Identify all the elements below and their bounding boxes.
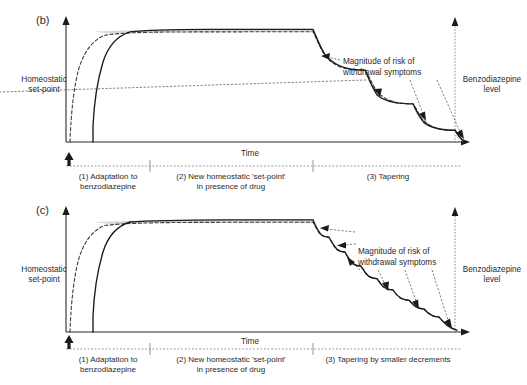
panel-c-phase-2-line2: in presence of drug [197,365,266,374]
panel-b-left-axis-label-line2: set-point [28,85,60,94]
panel-b-x-axis [66,138,470,145]
panel-b-right-axis-label-line2: level [484,85,501,94]
panel-c: (c) Homeostatic set-point Benzodiazepine… [0,192,527,384]
panel-b-phase-1-line2: benzodiazepine [80,182,137,191]
panel-c-annotation-line1: Magnitude of risk of [358,247,430,256]
right-axis-arrowhead [452,207,459,216]
x-axis-arrowhead [461,328,470,335]
panel-c-phase-ruler [66,343,462,355]
panel-b-phase-2-line1: (2) New homeostatic 'set-point' [176,172,286,181]
panel-b-phase-1-line1: (1) Adaptation to [79,172,138,181]
panel-b-drug-start-arrow [64,152,73,166]
panel-c-label: (c) [36,204,49,216]
panel-c-phase-1-line1: (1) Adaptation to [79,355,138,364]
panel-c-risk-shading [93,220,456,330]
panel-c-right-axis [452,207,459,332]
panel-b-phase-3-line1: (3) Tapering [367,172,410,181]
right-axis-arrowhead [452,17,459,26]
panel-c-chart: (c) Homeostatic set-point Benzodiazepine… [0,192,527,384]
panel-c-x-axis [66,328,470,335]
left-axis-arrowhead [62,206,69,215]
panel-b-risk-shading [93,29,466,141]
panel-c-left-axis-label-line2: set-point [28,275,60,284]
panel-c-phase-2-line1: (2) New homeostatic 'set-point' [176,355,286,364]
panel-b-chart: (b) Homeostatic set-point Benzodiazepine… [0,0,527,192]
panel-b-annotation-line1: Magnitude of risk of [343,57,415,66]
panel-b-right-axis-label-line1: Benzodiazepine [463,75,522,84]
panel-c-homeostatic-curve [70,222,456,332]
panel-b: (b) Homeostatic set-point Benzodiazepine… [0,0,527,192]
panel-c-x-axis-label: Time [241,337,259,346]
panel-c-phase-1-line2: benzodiazepine [80,365,137,374]
panel-b-homeostatic-curve [70,32,466,142]
panel-b-left-axis-label-line1: Homeostatic [21,75,67,84]
panel-c-right-axis-label-line1: Benzodiazepine [463,265,522,274]
panel-b-right-axis [452,17,459,142]
left-axis-arrowhead [62,16,69,25]
panel-b-benzodiazepine-curve [93,29,466,142]
panel-b-phase-ruler [66,160,462,172]
panel-c-benzodiazepine-curve [93,220,457,332]
panel-c-annotation-line2: withdrawal symptoms [357,258,436,267]
panel-b-phase-2-line2: in presence of drug [197,182,266,191]
panel-b-label: (b) [36,14,49,26]
panel-c-right-axis-label-line2: level [484,275,501,284]
figure-container: (b) Homeostatic set-point Benzodiazepine… [0,0,527,385]
panel-c-annotation-leaders [320,225,452,328]
panel-c-drug-start-arrow [64,335,73,349]
panel-b-x-axis-label: Time [241,149,259,158]
panel-c-left-axis-label-line1: Homeostatic [21,265,67,274]
panel-c-phase-3-line1: (3) Tapering by smaller decrements [325,355,450,364]
panel-b-annotation-line2: withdrawal symptoms [342,68,421,77]
